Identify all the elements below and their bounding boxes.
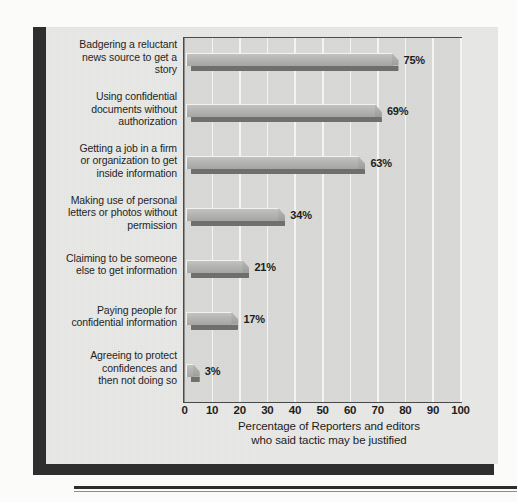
- bar-value-label: 34%: [290, 209, 311, 221]
- category-label-line-2: news source to get a: [45, 51, 177, 64]
- category-label-line-2: confidences and: [45, 362, 177, 375]
- x-tick-80: 80: [399, 404, 411, 416]
- bar-shadow-tail: [231, 325, 238, 330]
- plot-wrapper: 75%69%63%34%21%17%3%: [183, 37, 462, 403]
- category-axis-labels: Badgering a reluctantnews source to get …: [46, 37, 180, 403]
- category-label: Getting a job in a firmor organization t…: [45, 142, 177, 180]
- category-label-line-3: permission: [45, 219, 177, 232]
- gridline-100: [460, 38, 462, 402]
- bar-value-label: 21%: [254, 261, 275, 273]
- bar-row: 21%: [186, 247, 460, 299]
- category-label-line-2: confidential information: [45, 316, 177, 329]
- bar-row: 34%: [186, 195, 460, 247]
- bar-shadow-tail: [392, 66, 399, 71]
- bar-front-face: [186, 312, 233, 325]
- bar-shadow-tail: [193, 377, 200, 382]
- bar-series: 75%69%63%34%21%17%3%: [186, 40, 460, 401]
- bar-value-label: 17%: [243, 313, 264, 325]
- caption-line-1: Percentage of Reporters and editors: [183, 420, 475, 434]
- bar-row: 69%: [186, 91, 460, 143]
- bar-value-label: 3%: [205, 365, 221, 377]
- bar-front-face: [186, 364, 194, 377]
- x-tick-40: 40: [289, 404, 301, 416]
- category-label-line-1: Using confidential: [45, 90, 177, 103]
- bar-row: 17%: [186, 299, 460, 351]
- bar[interactable]: [186, 53, 393, 71]
- x-axis-tick-labels: 0102030405060708090100: [183, 404, 462, 420]
- bar-value-label: 75%: [404, 54, 425, 66]
- bottom-rule: [74, 486, 517, 489]
- x-tick-100: 100: [451, 404, 469, 416]
- bar-shadow: [191, 169, 365, 174]
- x-tick-0: 0: [181, 404, 187, 416]
- bar-row: 63%: [186, 143, 460, 195]
- bar-shadow: [191, 273, 249, 278]
- category-label: Agreeing to protectconfidences andthen n…: [45, 349, 177, 387]
- category-label-line-2: else to get information: [45, 264, 177, 277]
- x-tick-60: 60: [344, 404, 356, 416]
- category-label: Paying people forconfidential informatio…: [45, 304, 177, 329]
- category-label-line-2: letters or photos without: [45, 206, 177, 219]
- bar-shadow-tail: [242, 273, 249, 278]
- bar-front-face: [186, 53, 393, 66]
- category-label: Using confidentialdocuments withoutautho…: [45, 90, 177, 128]
- bar-shadow: [191, 325, 238, 330]
- figure-page: Badgering a reluctantnews source to get …: [0, 0, 517, 502]
- bar[interactable]: [186, 104, 376, 122]
- bar-shadow: [191, 117, 381, 122]
- bar-front-face: [186, 208, 280, 221]
- bottom-rule-thin: [74, 491, 517, 492]
- category-label-line-1: Agreeing to protect: [45, 349, 177, 362]
- bar-shadow-tail: [358, 169, 365, 174]
- bar-end-cap: [193, 364, 200, 377]
- x-axis-caption: Percentage of Reporters and editors who …: [183, 420, 475, 447]
- bar-front-face: [186, 260, 244, 273]
- bar[interactable]: [186, 260, 244, 278]
- x-tick-90: 90: [427, 404, 439, 416]
- category-label-line-1: Making use of personal: [45, 194, 177, 207]
- bar-row: 75%: [186, 40, 460, 92]
- category-label-line-3: then not doing so: [45, 374, 177, 387]
- bar-value-label: 63%: [370, 157, 391, 169]
- x-tick-10: 10: [206, 404, 218, 416]
- category-label-line-2: or organization to get: [45, 154, 177, 167]
- category-label-line-1: Getting a job in a firm: [45, 142, 177, 155]
- bar[interactable]: [186, 156, 360, 174]
- x-tick-20: 20: [234, 404, 246, 416]
- category-label-line-1: Paying people for: [45, 304, 177, 317]
- bar[interactable]: [186, 208, 280, 226]
- plot-area: 75%69%63%34%21%17%3%: [183, 37, 462, 403]
- caption-line-2: who said tactic may be justified: [183, 434, 475, 448]
- bar-end-cap: [242, 260, 249, 273]
- x-tick-50: 50: [316, 404, 328, 416]
- bar-shadow: [191, 66, 398, 71]
- category-label-line-1: Claiming to be someone: [45, 252, 177, 265]
- bar[interactable]: [186, 312, 233, 330]
- bar-end-cap: [231, 312, 238, 325]
- bar[interactable]: [186, 364, 194, 382]
- bar-front-face: [186, 156, 360, 169]
- category-label-line-3: authorization: [45, 115, 177, 128]
- bar-shadow-tail: [375, 117, 382, 122]
- x-tick-30: 30: [261, 404, 273, 416]
- bar-value-label: 69%: [387, 105, 408, 117]
- bar-front-face: [186, 104, 376, 117]
- bar-row: 3%: [186, 351, 460, 403]
- category-label-line-3: inside information: [45, 167, 177, 180]
- bar-shadow-tail: [278, 221, 285, 226]
- bar-end-cap: [392, 53, 399, 66]
- bar-end-cap: [358, 156, 365, 169]
- category-label-line-3: story: [45, 63, 177, 76]
- bar-shadow: [191, 221, 285, 226]
- x-tick-70: 70: [372, 404, 384, 416]
- category-label: Badgering a reluctantnews source to get …: [45, 38, 177, 76]
- category-label: Making use of personalletters or photos …: [45, 194, 177, 232]
- bar-end-cap: [278, 208, 285, 221]
- category-label-line-1: Badgering a reluctant: [45, 38, 177, 51]
- category-label-line-2: documents without: [45, 103, 177, 116]
- bar-end-cap: [375, 104, 382, 117]
- category-label: Claiming to be someoneelse to get inform…: [45, 252, 177, 277]
